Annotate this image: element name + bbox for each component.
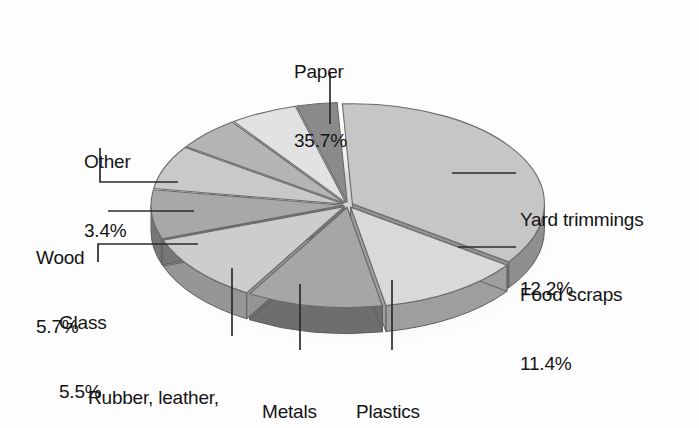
slice-label-plastics-name: Plastics xyxy=(356,400,420,423)
slice-label-food-scraps: Food scraps 11.4% xyxy=(520,237,622,421)
slice-label-other-percent: 3.4% xyxy=(84,219,131,242)
slice-label-yard-name: Yard trimmings xyxy=(520,208,644,231)
slice-label-other: Other 3.4% xyxy=(84,104,131,288)
slice-label-metals: Metals 7.9% xyxy=(262,354,317,428)
slice-label-rubber-leather-textiles: Rubber, leather, and textiles 7.1% xyxy=(88,340,219,428)
slice-label-paper: Paper 35.7% xyxy=(294,14,347,198)
slice-label-other-name: Other xyxy=(84,150,131,173)
slice-label-plastics: Plastics 11.1% xyxy=(356,354,420,428)
pie-chart-figure: Paper 35.7% Other 3.4% Wood 5.7% Glass 5… xyxy=(0,0,699,428)
slice-label-metals-name: Metals xyxy=(262,400,317,423)
slice-label-glass-name: Glass xyxy=(59,311,107,334)
slice-label-food-name: Food scraps xyxy=(520,283,622,306)
slice-label-paper-name: Paper xyxy=(294,60,347,83)
slice-label-rubber-name-line1: Rubber, leather, xyxy=(88,386,219,409)
pie-slices xyxy=(151,103,544,334)
slice-label-paper-percent: 35.7% xyxy=(294,129,347,152)
slice-label-food-percent: 11.4% xyxy=(520,352,622,375)
